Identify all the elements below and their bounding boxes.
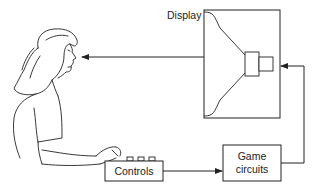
crt-neck bbox=[245, 52, 259, 76]
player-figure bbox=[13, 29, 120, 166]
control-knob bbox=[149, 157, 155, 161]
display-node: Display bbox=[167, 9, 280, 118]
control-knob bbox=[138, 157, 144, 161]
crt-base bbox=[259, 57, 273, 71]
game-circuits-label-line1: Game bbox=[238, 150, 267, 162]
game-system-diagram: Display Controls Game circuits bbox=[0, 0, 317, 190]
control-knob bbox=[127, 157, 133, 161]
controls-label: Controls bbox=[114, 165, 153, 177]
game-circuits-label-line2: circuits bbox=[236, 163, 269, 175]
display-label: Display bbox=[167, 9, 202, 21]
arrow-circuits-to-display bbox=[281, 66, 304, 163]
game-circuits-node: Game circuits bbox=[223, 145, 281, 181]
controls-node: Controls bbox=[105, 157, 163, 181]
